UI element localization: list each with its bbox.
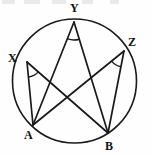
figure-canvas [0, 0, 151, 156]
top-edge-artifact [110, 0, 119, 4]
top-edge-artifact [24, 0, 40, 4]
angle-arc-at-X [28, 72, 38, 77]
top-edge-artifact [52, 0, 66, 4]
angle-arc-at-Z [112, 61, 121, 67]
vertex-label-a: A [24, 129, 33, 141]
vertex-label-b: B [105, 140, 113, 152]
vertex-label-x: X [8, 52, 17, 64]
chord-Z-A [33, 51, 124, 125]
top-edge-artifact [82, 0, 93, 4]
vertex-label-z: Z [128, 36, 136, 48]
geometry-figure: XYZAB [0, 0, 151, 156]
chord-X-A [27, 62, 33, 125]
vertex-label-y: Y [70, 2, 79, 14]
angle-arc-at-Y [67, 39, 79, 40]
top-edge-artifact [2, 0, 15, 4]
